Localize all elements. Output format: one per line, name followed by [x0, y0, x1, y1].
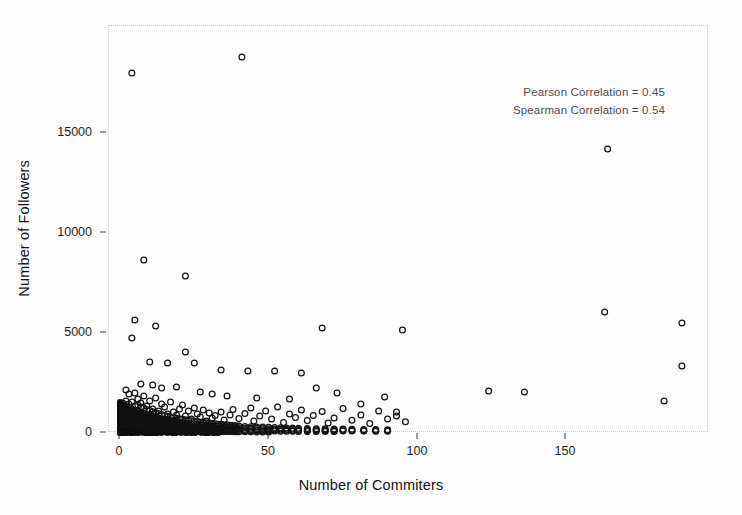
- scatter-point: [141, 393, 147, 399]
- scatter-point: [304, 418, 310, 424]
- scatter-point: [200, 407, 206, 413]
- scatter-point: [209, 391, 215, 397]
- scatter-point: [248, 405, 254, 411]
- scatter-point: [394, 413, 400, 419]
- scatter-data-layer: [109, 26, 707, 431]
- x-tick-label-0: 0: [116, 444, 123, 458]
- scatter-point: [132, 317, 138, 323]
- scatter-point: [180, 402, 186, 408]
- plot-area: Pearson Correlation = 0.45 Spearman Corr…: [108, 25, 708, 432]
- y-tick-mark-10000: [100, 232, 106, 233]
- scatter-svg: [109, 26, 709, 433]
- y-tick-label-10000: 10000: [46, 225, 92, 239]
- y-tick-label-0: 0: [46, 425, 92, 439]
- y-axis-label: Number of Followers: [16, 160, 32, 297]
- scatter-point: [236, 416, 242, 422]
- scatter-point: [403, 419, 409, 425]
- scatter-point: [126, 391, 132, 397]
- scatter-point: [129, 70, 135, 76]
- scatter-point: [218, 409, 224, 415]
- scatter-point: [376, 408, 382, 414]
- scatter-point: [138, 381, 144, 387]
- figure-canvas: Number of Followers 15000 10000 5000 0 0…: [0, 0, 742, 515]
- scatter-point: [150, 382, 156, 388]
- scatter-point: [239, 54, 245, 60]
- scatter-point: [293, 415, 299, 421]
- scatter-point: [147, 359, 153, 365]
- x-tick-label-100: 100: [407, 444, 428, 458]
- scatter-point: [605, 146, 611, 152]
- scatter-point: [287, 396, 293, 402]
- scatter-point: [141, 257, 147, 263]
- scatter-points: [120, 54, 685, 435]
- scatter-point: [400, 327, 406, 333]
- x-tick-label-50: 50: [261, 444, 275, 458]
- scatter-point: [272, 368, 278, 374]
- y-axis-label-holder: Number of Followers: [16, 0, 32, 457]
- scatter-point: [227, 412, 233, 418]
- scatter-point: [153, 395, 159, 401]
- scatter-point: [251, 418, 257, 424]
- scatter-point: [257, 413, 263, 419]
- scatter-point: [245, 368, 251, 374]
- scatter-point: [319, 325, 325, 331]
- y-tick-mark-0: [100, 432, 106, 433]
- scatter-point: [661, 398, 667, 404]
- scatter-point: [334, 390, 340, 396]
- scatter-point: [269, 416, 275, 422]
- scatter-point: [263, 408, 269, 414]
- scatter-point: [197, 389, 203, 395]
- scatter-point: [218, 367, 224, 373]
- scatter-point: [153, 323, 159, 329]
- scatter-point: [135, 396, 141, 402]
- scatter-point: [230, 407, 236, 413]
- scatter-point: [183, 349, 189, 355]
- scatter-point: [340, 406, 346, 412]
- scatter-point: [165, 360, 171, 366]
- y-tick-label-5000: 5000: [46, 325, 92, 339]
- scatter-point: [349, 417, 355, 423]
- scatter-point: [123, 387, 129, 393]
- scatter-point: [358, 401, 364, 407]
- scatter-point: [183, 273, 189, 279]
- scatter-point: [313, 385, 319, 391]
- scatter-point: [174, 384, 180, 390]
- scatter-point: [159, 385, 165, 391]
- scatter-point: [486, 388, 492, 394]
- scatter-point: [132, 390, 138, 396]
- scatter-point: [168, 399, 174, 405]
- scatter-point: [358, 412, 364, 418]
- scatter-point: [191, 360, 197, 366]
- x-tick-label-150: 150: [555, 444, 576, 458]
- scatter-point: [242, 411, 248, 417]
- scatter-point: [331, 415, 337, 421]
- scatter-point: [382, 394, 388, 400]
- scatter-point: [325, 420, 331, 426]
- scatter-point: [129, 335, 135, 341]
- x-axis-label: Number of Commiters: [0, 477, 742, 493]
- scatter-point: [679, 363, 685, 369]
- scatter-point: [521, 389, 527, 395]
- scatter-point: [602, 309, 608, 315]
- scatter-point: [177, 406, 183, 412]
- x-tick-mark-150: [565, 433, 566, 439]
- scatter-point: [367, 421, 373, 427]
- scatter-point: [147, 398, 153, 404]
- y-tick-mark-5000: [100, 332, 106, 333]
- y-tick-label-15000: 15000: [46, 125, 92, 139]
- scatter-point: [319, 409, 325, 415]
- scatter-point: [310, 413, 316, 419]
- scatter-point: [191, 405, 197, 411]
- scatter-point: [298, 370, 304, 376]
- y-tick-mark-15000: [100, 132, 106, 133]
- scatter-point: [385, 416, 391, 422]
- scatter-point: [224, 393, 230, 399]
- x-tick-mark-100: [417, 433, 418, 439]
- scatter-point: [185, 408, 191, 414]
- scatter-point: [254, 395, 260, 401]
- scatter-point: [679, 320, 685, 326]
- scatter-point: [275, 404, 281, 410]
- scatter-point: [298, 407, 304, 413]
- scatter-point: [287, 411, 293, 417]
